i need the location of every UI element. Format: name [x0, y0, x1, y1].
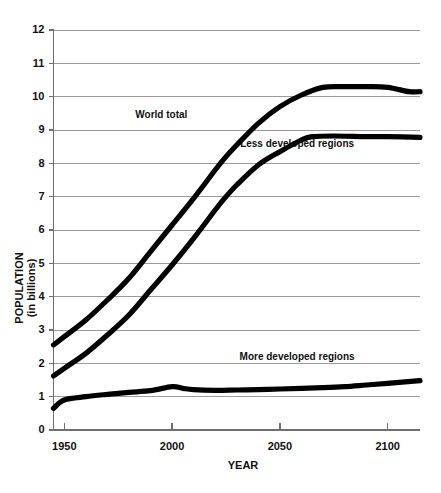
- chart-canvas: 0123456789101112 1950200020502100 World …: [0, 0, 441, 493]
- y-tick-label-7: 7: [38, 190, 44, 202]
- y-tick-label-0: 0: [38, 423, 44, 435]
- x-axis-title: YEAR: [228, 459, 259, 471]
- y-tick-label-8: 8: [38, 157, 44, 169]
- x-tick-label-2100: 2100: [375, 440, 399, 452]
- series-annotations: World totalLess developed regionsMore de…: [135, 109, 355, 362]
- series-line-1: [54, 136, 421, 376]
- series-line-2: [54, 381, 421, 409]
- y-tick-label-10: 10: [32, 90, 44, 102]
- y-tick-label-12: 12: [32, 23, 44, 35]
- y-tick-label-3: 3: [38, 323, 44, 335]
- y-axis-title-line2: (in billions): [25, 258, 37, 317]
- population-chart: 0123456789101112 1950200020502100 World …: [0, 0, 441, 493]
- y-axis-title-line1: POPULATION: [13, 252, 25, 323]
- series-annotation-0: World total: [135, 109, 187, 120]
- y-tick-label-11: 11: [33, 57, 45, 69]
- y-axis-tick-labels: 0123456789101112: [32, 23, 45, 435]
- y-tick-label-4: 4: [38, 290, 45, 302]
- y-tick-label-5: 5: [38, 257, 44, 269]
- x-tick-label-2000: 2000: [160, 440, 184, 452]
- y-tick-label-9: 9: [38, 123, 44, 135]
- x-tick-label-2050: 2050: [268, 440, 292, 452]
- x-axis-tick-labels: 1950200020502100: [52, 440, 400, 452]
- y-tick-label-2: 2: [38, 357, 44, 369]
- y-tick-label-6: 6: [38, 223, 44, 235]
- x-tick-label-1950: 1950: [52, 440, 76, 452]
- series-line-0: [54, 87, 421, 345]
- data-series: [54, 87, 421, 409]
- y-tick-label-1: 1: [38, 390, 44, 402]
- series-annotation-1: Less developed regions: [240, 138, 354, 149]
- series-annotation-2: More developed regions: [240, 351, 355, 362]
